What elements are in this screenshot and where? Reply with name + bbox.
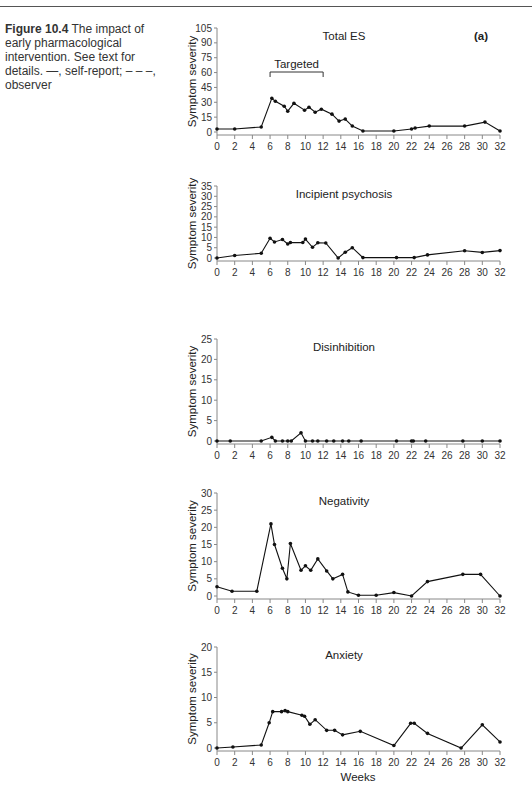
x-tick-label: 12 — [318, 450, 330, 461]
data-point — [215, 256, 219, 260]
data-point — [343, 117, 347, 121]
x-tick-label: 22 — [406, 450, 418, 461]
data-point — [483, 120, 487, 124]
x-tick-label: 16 — [353, 141, 365, 152]
x-tick-label: 14 — [335, 141, 347, 152]
data-point — [269, 522, 273, 526]
data-point — [461, 573, 465, 577]
y-tick-label: 0 — [206, 436, 212, 447]
data-point — [233, 254, 237, 258]
x-tick-label: 30 — [477, 450, 489, 461]
x-tick-label: 24 — [424, 450, 436, 461]
figure-charts: 0153045607590105024681012141618202224262… — [0, 0, 532, 807]
data-point — [304, 237, 308, 241]
data-point — [215, 746, 219, 750]
y-tick-label: 10 — [201, 692, 213, 703]
x-tick-label: 6 — [267, 450, 273, 461]
x-tick-label: 20 — [388, 141, 400, 152]
data-point — [481, 251, 485, 255]
x-tick-label: 20 — [388, 267, 400, 278]
data-point — [233, 127, 237, 131]
y-tick-label: 0 — [206, 127, 212, 138]
data-point — [426, 580, 430, 584]
series-line — [217, 524, 500, 596]
data-point — [313, 718, 317, 722]
x-tick-label: 16 — [353, 267, 365, 278]
data-point — [424, 439, 428, 443]
x-tick-label: 12 — [318, 141, 330, 152]
y-tick-label: 75 — [201, 52, 213, 63]
x-tick-label: 14 — [335, 757, 347, 768]
x-tick-label: 30 — [477, 141, 489, 152]
data-point — [259, 743, 263, 747]
data-point — [301, 241, 305, 245]
x-tick-label: 2 — [232, 757, 238, 768]
data-point — [259, 125, 263, 129]
data-point — [412, 256, 416, 260]
data-point — [304, 564, 308, 568]
y-axis-label: Symptom severity — [186, 36, 198, 128]
series-line — [217, 98, 500, 131]
targeted-bracket — [270, 72, 323, 77]
data-point — [281, 238, 285, 242]
x-tick-label: 8 — [285, 757, 291, 768]
y-tick-label: 0 — [206, 743, 212, 754]
y-tick-label: 45 — [201, 82, 213, 93]
x-tick-label: 0 — [214, 267, 220, 278]
y-axis-label: Symptom severity — [186, 346, 198, 438]
y-tick-label: 15 — [201, 222, 213, 233]
x-tick-label: 10 — [300, 605, 312, 616]
x-tick-label: 10 — [300, 450, 312, 461]
data-point — [228, 439, 232, 443]
x-tick-label: 26 — [441, 605, 453, 616]
x-tick-label: 20 — [388, 450, 400, 461]
x-tick-label: 18 — [371, 757, 383, 768]
x-tick-label: 4 — [250, 141, 256, 152]
data-point — [409, 721, 413, 725]
y-tick-label: 90 — [201, 37, 213, 48]
data-point — [320, 107, 324, 111]
y-tick-label: 20 — [201, 642, 213, 653]
x-tick-label: 26 — [441, 141, 453, 152]
x-tick-label: 12 — [318, 757, 330, 768]
data-point — [325, 729, 329, 733]
x-tick-label: 28 — [459, 605, 471, 616]
data-point — [309, 568, 313, 572]
data-point — [498, 129, 502, 133]
data-point — [395, 439, 399, 443]
x-tick-label: 4 — [250, 267, 256, 278]
y-tick-label: 10 — [201, 556, 213, 567]
data-point — [316, 557, 320, 561]
y-tick-label: 30 — [201, 191, 213, 202]
chart-title: Total ES — [323, 30, 366, 42]
y-tick-label: 5 — [206, 242, 212, 253]
data-point — [230, 589, 234, 593]
data-point — [330, 112, 334, 116]
data-point — [412, 721, 416, 725]
data-point — [351, 124, 355, 128]
data-point — [459, 746, 463, 750]
x-axis-label: Weeks — [341, 771, 376, 783]
x-tick-label: 32 — [494, 605, 506, 616]
data-point — [299, 431, 303, 435]
data-point — [285, 577, 289, 581]
data-point — [426, 732, 430, 736]
data-point — [498, 740, 502, 744]
x-tick-label: 0 — [214, 605, 220, 616]
y-tick-label: 5 — [206, 573, 212, 584]
series-line — [217, 433, 500, 441]
x-tick-label: 14 — [335, 605, 347, 616]
data-point — [316, 241, 320, 245]
data-point — [331, 577, 335, 581]
x-tick-label: 8 — [285, 267, 291, 278]
data-point — [215, 439, 219, 443]
y-tick-label: 5 — [206, 717, 212, 728]
data-point — [337, 119, 341, 123]
data-point — [481, 439, 485, 443]
data-point — [299, 568, 303, 572]
x-tick-label: 26 — [441, 450, 453, 461]
x-tick-label: 28 — [459, 450, 471, 461]
data-point — [286, 439, 290, 443]
x-tick-label: 18 — [371, 267, 383, 278]
data-point — [215, 585, 219, 589]
